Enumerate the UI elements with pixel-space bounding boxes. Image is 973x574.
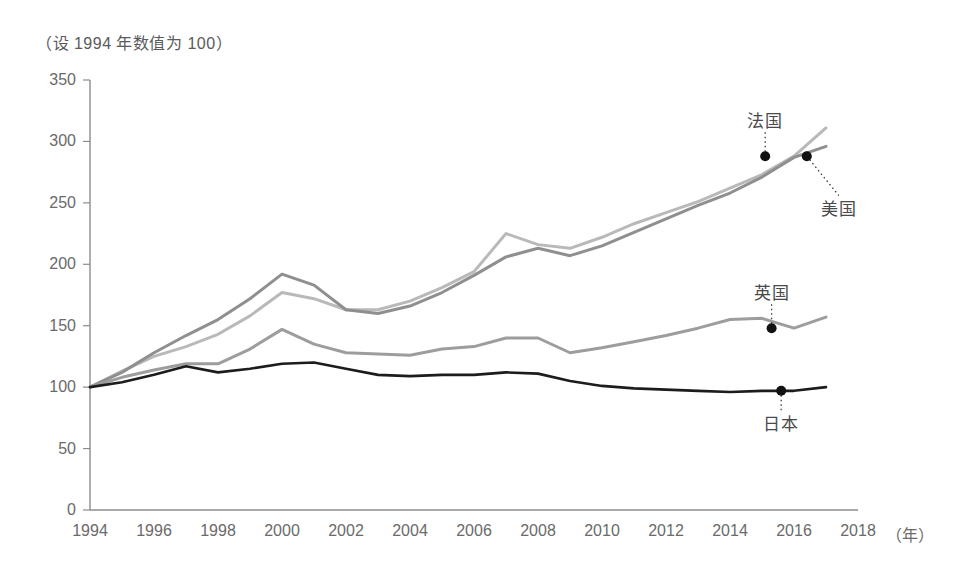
x-axis-tick-label: 2016 [776, 522, 812, 540]
series-label-2: 英国 [754, 279, 790, 304]
series-label-3: 日本 [763, 409, 799, 434]
data-point-marker [767, 323, 777, 333]
y-axis-tick-label: 200 [20, 255, 76, 273]
y-axis-tick-label: 350 [20, 71, 76, 89]
data-point-marker [802, 151, 812, 161]
x-axis-tick-label: 2012 [648, 522, 684, 540]
x-axis-unit-label: （年） [886, 522, 934, 546]
x-axis-tick-label: 2014 [712, 522, 748, 540]
series-label-0: 法国 [747, 107, 783, 132]
x-axis-tick-label: 2006 [456, 522, 492, 540]
x-axis-tick-label: 2004 [392, 522, 428, 540]
x-axis-tick-label: 2010 [584, 522, 620, 540]
x-axis-tick-label: 1996 [136, 522, 172, 540]
y-axis-tick-label: 100 [20, 378, 76, 396]
x-axis-tick-label: 2008 [520, 522, 556, 540]
y-axis-tick-label: 300 [20, 132, 76, 150]
y-axis-tick-label: 250 [20, 194, 76, 212]
data-point-marker [776, 386, 786, 396]
x-axis-tick-label: 2000 [264, 522, 300, 540]
data-point-marker [760, 151, 770, 161]
y-axis-tick-label: 0 [20, 501, 76, 519]
series-line-3 [90, 363, 826, 392]
x-axis-tick-label: 2002 [328, 522, 364, 540]
x-axis-tick-label: 1998 [200, 522, 236, 540]
line-chart-figure: （设 1994 年数值为 100） 050100150200250300350 … [0, 0, 973, 574]
x-axis-tick-label: 2018 [840, 522, 876, 540]
annotation-leader-line [807, 156, 839, 195]
x-axis-tick-label: 1994 [72, 522, 108, 540]
y-axis-tick-label: 150 [20, 317, 76, 335]
y-axis-ticks [83, 80, 90, 510]
series-line-1 [90, 146, 826, 387]
series-label-1: 美国 [821, 194, 857, 219]
series-lines [90, 128, 826, 392]
y-axis-tick-label: 50 [20, 440, 76, 458]
axis-lines [90, 80, 858, 510]
plot-area [0, 0, 973, 574]
